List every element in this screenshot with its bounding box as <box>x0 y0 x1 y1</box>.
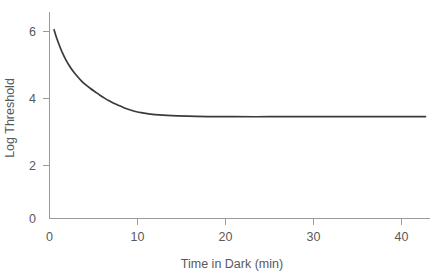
x-tick-label-0: 0 <box>46 230 53 244</box>
y-axis-title: Log Threshold <box>3 78 17 158</box>
x-tick-label-30: 30 <box>307 230 321 244</box>
y-tick-label-6: 6 <box>29 25 36 39</box>
y-tick-label-2: 2 <box>29 159 36 173</box>
x-tick-label-10: 10 <box>131 230 145 244</box>
dark-adaptation-plot: 6 4 2 0 0 10 20 30 40 Time in Dark (min)… <box>0 0 431 280</box>
y-tick-label-4: 4 <box>29 92 36 106</box>
x-axis-title: Time in Dark (min) <box>181 257 283 271</box>
x-tick-label-20: 20 <box>219 230 233 244</box>
chart-figure: 6 4 2 0 0 10 20 30 40 Time in Dark (min)… <box>0 0 431 280</box>
threshold-curve <box>54 30 425 117</box>
y-tick-label-0: 0 <box>29 212 36 226</box>
x-tick-label-40: 40 <box>395 230 409 244</box>
